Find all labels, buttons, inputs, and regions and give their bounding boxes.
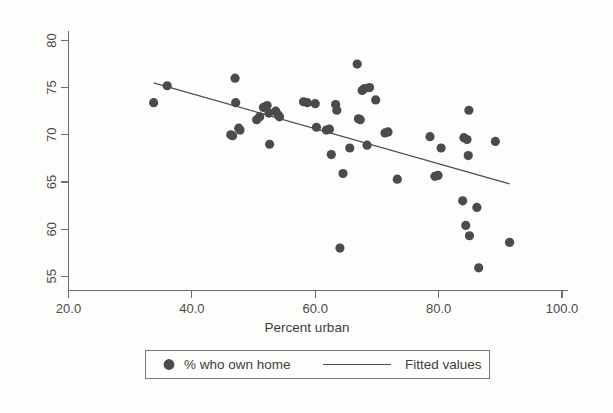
data-point	[311, 99, 320, 108]
data-point	[327, 150, 336, 159]
data-point	[464, 151, 473, 160]
data-point	[458, 196, 467, 205]
data-point	[230, 74, 239, 83]
data-point	[335, 243, 344, 252]
data-point	[464, 106, 473, 115]
axes	[69, 31, 569, 291]
x-axis-ticks: 20.040.060.080.0100.0	[56, 291, 578, 317]
data-point	[338, 169, 347, 178]
data-point	[332, 106, 341, 115]
data-point	[345, 143, 354, 152]
data-point	[362, 141, 371, 150]
x-tick-label: 80.0	[426, 301, 451, 316]
data-point	[149, 98, 158, 107]
y-axis-ticks: 556065707580	[45, 33, 69, 283]
y-tick-label: 70	[45, 128, 60, 142]
data-point	[383, 127, 392, 136]
fitted-line-path	[154, 83, 510, 184]
data-point	[163, 81, 172, 90]
data-point	[312, 123, 321, 132]
data-point	[235, 125, 244, 134]
data-point	[461, 221, 470, 230]
data-point	[303, 98, 312, 107]
data-point	[353, 59, 362, 68]
y-tick-label: 55	[45, 269, 60, 283]
data-point	[255, 112, 264, 121]
legend-label-fitted-values: Fitted values	[405, 357, 482, 372]
y-tick-label: 60	[45, 222, 60, 236]
data-point	[393, 175, 402, 184]
data-point	[465, 231, 474, 240]
scatter-plot-figure: 556065707580 20.040.060.080.0100.0 Perce…	[0, 0, 613, 413]
x-tick-label: 60.0	[303, 301, 328, 316]
data-point	[472, 203, 481, 212]
y-tick-label: 80	[45, 33, 60, 47]
data-point	[433, 171, 442, 180]
data-point	[365, 83, 374, 92]
data-point	[228, 131, 237, 140]
data-point	[491, 137, 500, 146]
data-point	[436, 143, 445, 152]
data-point	[275, 112, 284, 121]
data-point	[474, 263, 483, 272]
legend: % who own home Fitted values	[146, 351, 490, 379]
x-tick-label: 40.0	[179, 301, 204, 316]
scatter-markers	[149, 59, 514, 272]
legend-label-own-home: % who own home	[184, 357, 291, 372]
fitted-values-line	[154, 83, 510, 184]
data-point	[231, 98, 240, 107]
data-point	[371, 95, 380, 104]
x-tick-label: 20.0	[56, 301, 81, 316]
y-tick-label: 75	[45, 80, 60, 94]
data-point	[265, 140, 274, 149]
legend-marker-own-home-icon	[164, 359, 175, 370]
data-point	[325, 125, 334, 134]
data-point	[425, 132, 434, 141]
data-point	[505, 238, 514, 247]
chart-canvas: 556065707580 20.040.060.080.0100.0 Perce…	[0, 0, 613, 413]
data-point	[356, 115, 365, 124]
x-axis-title: Percent urban	[265, 320, 350, 335]
data-point	[462, 135, 471, 144]
y-tick-label: 65	[45, 175, 60, 189]
x-tick-label: 100.0	[546, 301, 579, 316]
